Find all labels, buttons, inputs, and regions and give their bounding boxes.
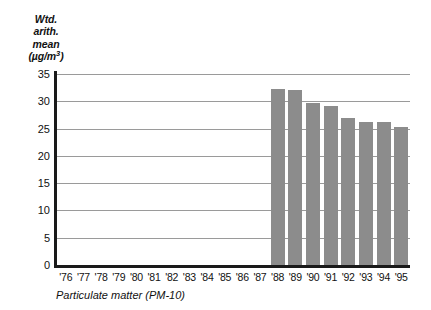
chart-caption: Particulate matter (PM-10) (56, 289, 185, 301)
y-axis-label-line-1: Wtd. (8, 13, 84, 25)
x-axis-tick-label: '85 (216, 271, 234, 283)
x-axis-tick-label: '79 (110, 271, 128, 283)
bar (394, 127, 408, 265)
x-axis-tick-label: '95 (392, 271, 410, 283)
x-axis-tick-label: '86 (233, 271, 251, 283)
y-axis-unit-prefix: (µg/m (28, 50, 56, 62)
y-axis-label: Wtd. arith. mean (µg/m3) (8, 13, 84, 63)
x-axis-tick-label: '92 (339, 271, 357, 283)
bar (341, 118, 355, 265)
y-axis-tick-label: 35 (4, 69, 50, 80)
gridline (57, 74, 410, 75)
x-axis-line (54, 265, 410, 268)
y-axis-unit-suffix: ) (60, 50, 63, 62)
x-axis-tick-label: '81 (145, 271, 163, 283)
bar (271, 89, 285, 265)
x-axis-tick-label: '80 (127, 271, 145, 283)
y-axis-tick-label: 15 (4, 178, 50, 189)
x-axis-tick-label: '77 (74, 271, 92, 283)
x-axis-ticks: '76'77'78'79'80'81'82'83'84'85'86'87'88'… (57, 271, 410, 285)
gridline (57, 183, 410, 184)
gridline (57, 210, 410, 211)
x-axis-tick-label: '87 (251, 271, 269, 283)
x-axis-tick-label: '82 (163, 271, 181, 283)
x-axis-tick-label: '76 (57, 271, 75, 283)
chart-screenshot: Wtd. arith. mean (µg/m3) 05101520253035 … (0, 0, 431, 310)
y-axis-tick-label: 10 (4, 205, 50, 216)
y-axis-tick-label: 25 (4, 124, 50, 135)
x-axis-tick-label: '83 (180, 271, 198, 283)
y-axis-label-line-2: arith. (8, 25, 84, 37)
gridline (57, 238, 410, 239)
bar (377, 122, 391, 265)
x-axis-tick-label: '78 (92, 271, 110, 283)
y-axis-tick-label: 5 (4, 233, 50, 244)
x-axis-tick-label: '90 (304, 271, 322, 283)
y-axis-tick-label: 30 (4, 96, 50, 107)
bar (359, 122, 373, 265)
x-axis-tick-label: '89 (286, 271, 304, 283)
x-axis-tick-label: '84 (198, 271, 216, 283)
y-axis-tick-label: 0 (4, 260, 50, 271)
y-axis-label-line-3: mean (8, 38, 84, 50)
gridline (57, 129, 410, 130)
x-axis-tick-label: '94 (375, 271, 393, 283)
y-axis-label-unit: (µg/m3) (8, 50, 84, 62)
bar (288, 90, 302, 265)
gridline (57, 156, 410, 157)
bar (324, 106, 338, 265)
x-axis-tick-label: '91 (322, 271, 340, 283)
plot-area (57, 74, 410, 265)
y-axis-tick-label: 20 (4, 151, 50, 162)
x-axis-tick-label: '93 (357, 271, 375, 283)
bar (306, 103, 320, 265)
gridline (57, 101, 410, 102)
x-axis-tick-label: '88 (269, 271, 287, 283)
